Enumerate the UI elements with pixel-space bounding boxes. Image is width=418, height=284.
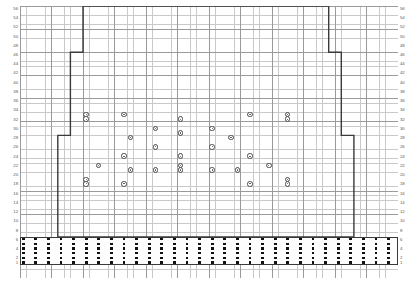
circle-symbol xyxy=(121,153,126,158)
square-dot-symbol xyxy=(324,247,327,249)
square-dot-symbol xyxy=(34,261,37,263)
square-dot-symbol xyxy=(236,252,239,254)
square-dot-symbol xyxy=(22,252,25,254)
row-tick-16: 16 xyxy=(398,190,418,197)
row-tick-40: 40 xyxy=(0,79,20,86)
square-dot-symbol xyxy=(60,252,63,254)
square-dot-symbol xyxy=(60,238,63,240)
circle-symbol xyxy=(83,181,88,186)
row-tick-14: 14 xyxy=(0,199,20,206)
square-dot-symbol xyxy=(173,257,176,259)
square-dot-symbol xyxy=(198,257,201,259)
row-tick-42: 42 xyxy=(398,69,418,76)
square-dot-symbol xyxy=(387,257,390,259)
square-dot-symbol xyxy=(34,257,37,259)
square-dot-symbol xyxy=(223,238,226,240)
square-dot-symbol xyxy=(299,238,302,240)
row-tick-1: 1 xyxy=(398,259,418,266)
square-dot-symbol xyxy=(299,247,302,249)
square-dot-symbol xyxy=(337,243,340,245)
square-dot-symbol xyxy=(123,238,126,240)
square-dot-symbol xyxy=(186,238,189,240)
row-tick-32: 32 xyxy=(398,116,418,123)
square-dot-symbol xyxy=(261,247,264,249)
row-tick-18: 18 xyxy=(398,180,418,187)
square-dot-symbol xyxy=(198,261,201,263)
square-dot-symbol xyxy=(362,257,365,259)
square-dot-symbol xyxy=(135,261,138,263)
square-dot-symbol xyxy=(123,247,126,249)
square-dot-symbol xyxy=(123,257,126,259)
square-dot-symbol xyxy=(312,238,315,240)
row-tick-50: 50 xyxy=(0,33,20,40)
square-dot-symbol xyxy=(249,252,252,254)
square-dot-symbol xyxy=(375,252,378,254)
square-dot-symbol xyxy=(236,247,239,249)
square-dot-symbol xyxy=(261,252,264,254)
circle-symbol xyxy=(153,167,158,172)
square-dot-symbol xyxy=(211,243,214,245)
circle-symbol xyxy=(121,181,126,186)
square-dot-symbol xyxy=(85,243,88,245)
square-dot-symbol xyxy=(110,257,113,259)
square-dot-symbol xyxy=(135,247,138,249)
square-dot-symbol xyxy=(47,243,50,245)
square-dot-symbol xyxy=(286,243,289,245)
circle-symbol xyxy=(209,144,214,149)
square-dot-symbol xyxy=(324,261,327,263)
square-dot-symbol xyxy=(223,257,226,259)
row-tick-4: 4 xyxy=(398,245,418,252)
circle-symbol xyxy=(209,126,214,131)
square-dot-symbol xyxy=(72,257,75,259)
square-dot-symbol xyxy=(60,247,63,249)
square-dot-symbol xyxy=(375,257,378,259)
row-tick-22: 22 xyxy=(0,162,20,169)
square-dot-symbol xyxy=(223,252,226,254)
square-dot-symbol xyxy=(236,243,239,245)
square-dot-symbol xyxy=(85,261,88,263)
row-tick-38: 38 xyxy=(0,88,20,95)
square-dot-symbol xyxy=(22,247,25,249)
square-dot-symbol xyxy=(387,247,390,249)
row-tick-54: 54 xyxy=(398,14,418,21)
square-dot-symbol xyxy=(274,243,277,245)
circle-symbol xyxy=(178,167,183,172)
square-dot-symbol xyxy=(47,247,50,249)
square-dot-symbol xyxy=(148,252,151,254)
square-dot-symbol xyxy=(349,261,352,263)
square-dot-symbol xyxy=(72,247,75,249)
square-dot-symbol xyxy=(47,261,50,263)
square-dot-symbol xyxy=(135,243,138,245)
square-dot-symbol xyxy=(160,261,163,263)
square-dot-symbol xyxy=(274,238,277,240)
row-tick-8: 8 xyxy=(398,227,418,234)
square-dot-symbol xyxy=(286,261,289,263)
square-dot-symbol xyxy=(186,257,189,259)
square-dot-symbol xyxy=(198,252,201,254)
square-dot-symbol xyxy=(261,243,264,245)
square-dot-symbol xyxy=(349,247,352,249)
row-tick-4: 4 xyxy=(0,245,20,252)
square-dot-symbol xyxy=(72,238,75,240)
circle-symbol xyxy=(83,116,88,121)
square-dot-symbol xyxy=(72,243,75,245)
square-dot-symbol xyxy=(286,247,289,249)
square-dot-symbol xyxy=(160,252,163,254)
square-dot-symbol xyxy=(312,247,315,249)
square-dot-symbol xyxy=(249,243,252,245)
row-tick-1: 1 xyxy=(0,259,20,266)
square-dot-symbol xyxy=(85,238,88,240)
square-dot-symbol xyxy=(47,257,50,259)
square-dot-symbol xyxy=(72,252,75,254)
square-dot-symbol xyxy=(211,261,214,263)
row-tick-30: 30 xyxy=(398,125,418,132)
square-dot-symbol xyxy=(337,238,340,240)
square-dot-symbol xyxy=(261,238,264,240)
row-tick-26: 26 xyxy=(398,143,418,150)
square-dot-symbol xyxy=(312,243,315,245)
square-dot-symbol xyxy=(110,243,113,245)
square-dot-symbol xyxy=(148,257,151,259)
circle-symbol xyxy=(247,153,252,158)
row-tick-26: 26 xyxy=(0,143,20,150)
square-dot-symbol xyxy=(299,257,302,259)
